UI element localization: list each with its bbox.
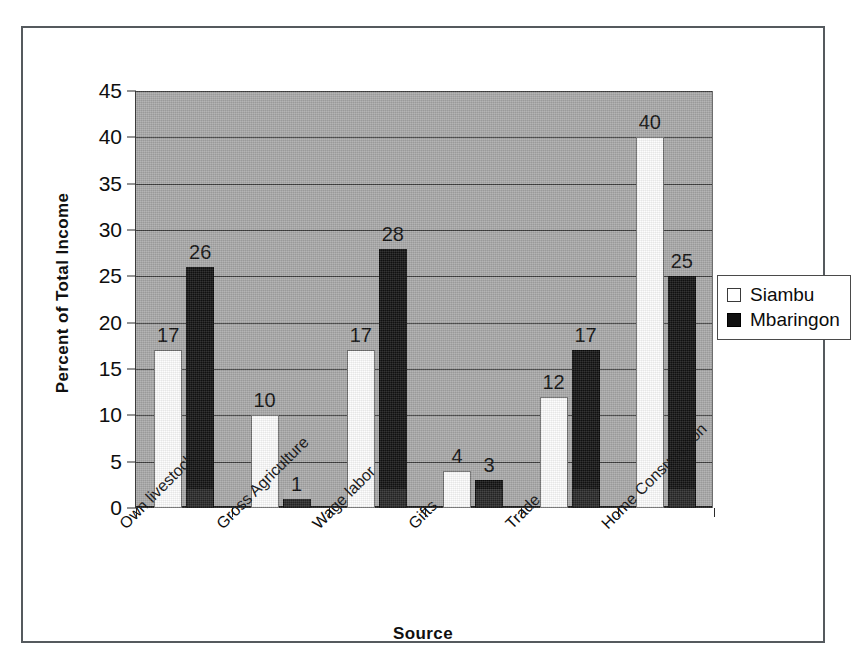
y-tick-label-45: 45 xyxy=(99,79,122,103)
gridline-40 xyxy=(136,137,712,138)
bar-value-siambu-home-consumption: 40 xyxy=(639,111,661,134)
scan-noise-overlay xyxy=(136,91,712,508)
y-tick-label-40: 40 xyxy=(99,125,122,149)
legend-label-siambu: Siambu xyxy=(750,285,814,304)
chart-figure-frame: Percent of Total Income 0510152025303540… xyxy=(21,26,825,643)
gridline-15 xyxy=(136,369,712,370)
y-tick-mark-5 xyxy=(127,461,136,462)
bar-value-mbaringon-wage-labor: 28 xyxy=(382,223,404,246)
bar-mbaringon-gross-agriculture xyxy=(283,499,311,508)
y-tick-label-20: 20 xyxy=(99,311,122,335)
chart-legend: SiambuMbaringon xyxy=(717,275,851,340)
bar-value-siambu-own-livestock: 17 xyxy=(157,324,179,347)
bar-value-mbaringon-gifts: 3 xyxy=(484,454,495,477)
legend-item-siambu: Siambu xyxy=(727,282,842,307)
bar-mbaringon-gifts xyxy=(475,480,503,508)
y-tick-mark-45 xyxy=(127,91,136,92)
bar-mbaringon-wage-labor xyxy=(379,249,407,508)
bar-value-siambu-gross-agriculture: 10 xyxy=(253,389,275,412)
y-tick-label-25: 25 xyxy=(99,264,122,288)
y-tick-label-10: 10 xyxy=(99,403,122,427)
y-tick-label-15: 15 xyxy=(99,357,122,381)
x-tick-mark-6 xyxy=(714,508,715,517)
gridline-25 xyxy=(136,276,712,277)
bar-value-mbaringon-own-livestock: 26 xyxy=(189,241,211,264)
bar-value-mbaringon-trade: 17 xyxy=(574,324,596,347)
legend-label-mbaringon: Mbaringon xyxy=(750,310,840,329)
y-tick-label-35: 35 xyxy=(99,172,122,196)
y-tick-mark-30 xyxy=(127,230,136,231)
gridline-20 xyxy=(136,323,712,324)
y-tick-mark-15 xyxy=(127,369,136,370)
bar-value-siambu-trade: 12 xyxy=(542,371,564,394)
bar-siambu-trade xyxy=(540,397,568,508)
bar-value-mbaringon-gross-agriculture: 1 xyxy=(291,473,302,496)
white-square-icon xyxy=(727,288,741,302)
bar-mbaringon-home-consumption xyxy=(668,276,696,508)
y-tick-mark-20 xyxy=(127,322,136,323)
y-tick-mark-35 xyxy=(127,183,136,184)
y-tick-mark-10 xyxy=(127,415,136,416)
y-tick-label-30: 30 xyxy=(99,218,122,242)
y-tick-label-5: 5 xyxy=(110,450,122,474)
bar-value-siambu-wage-labor: 17 xyxy=(350,324,372,347)
gridline-30 xyxy=(136,230,712,231)
legend-item-mbaringon: Mbaringon xyxy=(727,307,842,332)
x-axis-title: Source xyxy=(23,624,823,644)
gridline-45 xyxy=(136,91,712,92)
bar-value-mbaringon-home-consumption: 25 xyxy=(671,250,693,273)
bar-siambu-home-consumption xyxy=(636,137,664,508)
gridline-35 xyxy=(136,184,712,185)
gridline-10 xyxy=(136,415,712,416)
y-tick-mark-40 xyxy=(127,137,136,138)
gridline-5 xyxy=(136,462,712,463)
bar-mbaringon-own-livestock xyxy=(186,267,214,508)
bar-value-siambu-gifts: 4 xyxy=(452,445,463,468)
black-square-icon xyxy=(727,313,741,327)
bar-mbaringon-trade xyxy=(572,350,600,508)
y-axis-title: Percent of Total Income xyxy=(53,163,73,423)
bar-siambu-gifts xyxy=(443,471,471,508)
plot-area: 051015202530354045 172610117284312174025 xyxy=(135,91,713,508)
y-tick-mark-25 xyxy=(127,276,136,277)
